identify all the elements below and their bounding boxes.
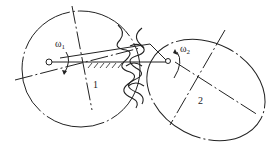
gear-2-major-axis <box>175 62 258 115</box>
gear-2-label: 2 <box>198 95 203 106</box>
omega-2-label: ω2 <box>180 43 191 56</box>
gear-1-minor-axis <box>72 6 92 110</box>
gear-2-pitch-ellipse <box>129 19 271 148</box>
omega-1-label: ω1 <box>55 38 66 51</box>
elliptical-gear-diagram: ω1 1 ω2 2 <box>0 0 271 148</box>
gear-1-pitch-ellipse <box>22 11 140 127</box>
frame-hatch <box>88 63 122 68</box>
gear-2-minor-axis <box>170 30 225 125</box>
gear-2-pivot <box>166 59 171 64</box>
gear-1-label: 1 <box>93 79 98 90</box>
gear-1-pivot <box>46 59 52 65</box>
